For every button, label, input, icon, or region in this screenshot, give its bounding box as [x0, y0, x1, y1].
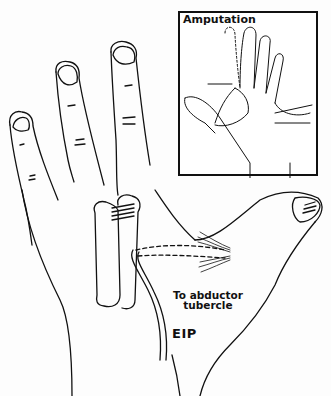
abductor-label: To abductor tubercle: [173, 290, 243, 310]
metacarpal-bones: [94, 195, 140, 309]
figure-canvas: Amputation To abductor tubercle EIP: [0, 0, 331, 396]
little-finger: [10, 112, 58, 245]
abductor-insertion: [198, 232, 230, 272]
tendon-eip: [132, 250, 167, 360]
palm-contour: [172, 355, 180, 396]
middle-finger: [111, 41, 150, 195]
inset-hand-drawing: [180, 13, 320, 178]
inset-title: Amputation: [183, 13, 256, 26]
hand-outline-left: [22, 190, 72, 396]
ring-finger: [56, 61, 104, 185]
abductor-label-line2: tubercle: [173, 300, 243, 310]
tendon-route: [136, 246, 225, 259]
tendon-label: EIP: [172, 326, 197, 341]
amputation-inset: [178, 11, 318, 176]
web-contour: [155, 190, 195, 240]
